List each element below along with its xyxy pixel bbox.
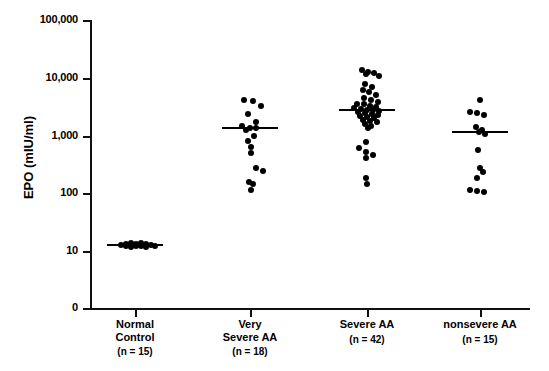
x-group-label: nonsevere AA(n = 15) xyxy=(410,318,549,346)
x-group-sample-size: (n = 18) xyxy=(180,346,320,359)
epo-scatter-chart: EPO (mIU/ml) 100,00010,0001,000100100 No… xyxy=(0,0,549,371)
x-group-sample-size: (n = 15) xyxy=(410,334,549,347)
x-group-labels-layer: NormalControl(n = 15)VerySevere AA(n = 1… xyxy=(0,0,549,371)
x-group-label-line1: nonsevere AA xyxy=(410,318,549,331)
